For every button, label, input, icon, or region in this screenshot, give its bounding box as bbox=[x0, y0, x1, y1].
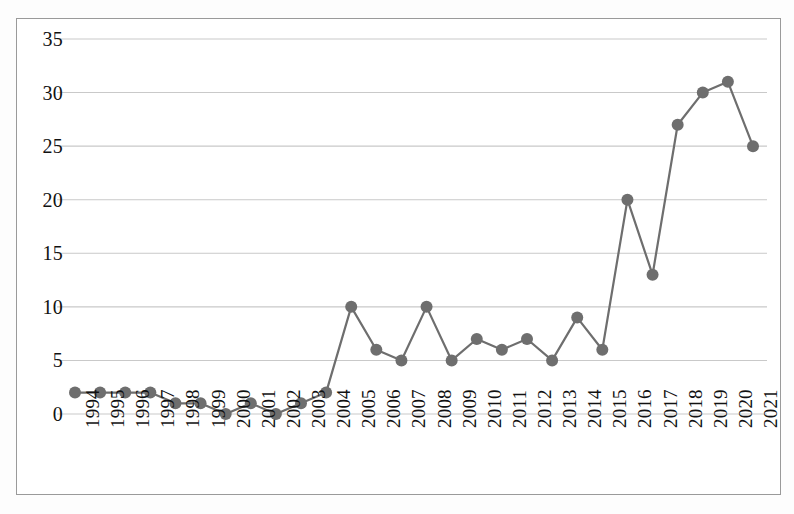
x-tick-label: 2009 bbox=[460, 389, 479, 428]
y-tick-label: 10 bbox=[17, 297, 63, 317]
x-tick-label: 1994 bbox=[83, 389, 102, 428]
data-point-marker bbox=[496, 344, 508, 356]
x-tick-label: 2006 bbox=[384, 389, 403, 428]
x-tick-label: 1996 bbox=[133, 389, 152, 428]
x-tick-label: 2005 bbox=[359, 389, 378, 428]
chart-figure: 05101520253035 1994199519961997199819992… bbox=[0, 0, 794, 514]
x-tick-label: 2016 bbox=[635, 389, 654, 428]
x-tick-label: 2010 bbox=[485, 389, 504, 428]
x-tick-label: 2019 bbox=[711, 389, 730, 428]
x-tick-label: 2018 bbox=[686, 389, 705, 428]
data-point-marker bbox=[722, 76, 734, 88]
x-tick-label: 2014 bbox=[585, 389, 604, 428]
data-point-marker bbox=[421, 301, 433, 313]
x-tick-label: 2017 bbox=[661, 389, 680, 428]
data-point-marker bbox=[571, 312, 583, 324]
x-tick-label: 2012 bbox=[535, 389, 554, 428]
x-tick-label: 1997 bbox=[158, 389, 177, 428]
x-tick-label: 2021 bbox=[761, 389, 780, 428]
data-point-marker bbox=[647, 269, 659, 281]
data-point-marker bbox=[546, 354, 558, 366]
data-point-marker bbox=[69, 387, 81, 399]
x-tick-label: 2008 bbox=[435, 389, 454, 428]
data-point-marker bbox=[747, 140, 759, 152]
data-point-marker bbox=[395, 354, 407, 366]
data-point-marker bbox=[697, 87, 709, 99]
x-tick-label: 2002 bbox=[284, 389, 303, 428]
x-tick-label: 2003 bbox=[309, 389, 328, 428]
x-tick-label: 2013 bbox=[560, 389, 579, 428]
gridlines-group bbox=[57, 39, 767, 414]
y-tick-label: 15 bbox=[17, 243, 63, 263]
data-point-marker bbox=[521, 333, 533, 345]
data-point-marker bbox=[471, 333, 483, 345]
y-tick-label: 35 bbox=[17, 29, 63, 49]
x-tick-label: 2015 bbox=[610, 389, 629, 428]
chart-frame: 05101520253035 1994199519961997199819992… bbox=[16, 18, 781, 495]
x-tick-label: 2020 bbox=[736, 389, 755, 428]
data-point-marker bbox=[446, 354, 458, 366]
y-tick-label: 20 bbox=[17, 190, 63, 210]
x-tick-label: 1999 bbox=[209, 389, 228, 428]
y-tick-label: 30 bbox=[17, 83, 63, 103]
y-tick-label: 25 bbox=[17, 136, 63, 156]
x-tick-label: 2007 bbox=[409, 389, 428, 428]
y-tick-label: 0 bbox=[17, 404, 63, 424]
data-point-marker bbox=[672, 119, 684, 131]
data-point-marker bbox=[596, 344, 608, 356]
x-tick-label: 2001 bbox=[259, 389, 278, 428]
data-series-group bbox=[69, 76, 759, 420]
x-tick-label: 2004 bbox=[334, 389, 353, 428]
x-tick-label: 1995 bbox=[108, 389, 127, 428]
data-point-marker bbox=[345, 301, 357, 313]
x-tick-label: 2000 bbox=[234, 389, 253, 428]
data-point-marker bbox=[370, 344, 382, 356]
x-tick-label: 2011 bbox=[510, 390, 529, 428]
x-tick-label: 1998 bbox=[183, 389, 202, 428]
y-tick-label: 5 bbox=[17, 350, 63, 370]
data-point-marker bbox=[621, 194, 633, 206]
series-line bbox=[75, 82, 753, 414]
